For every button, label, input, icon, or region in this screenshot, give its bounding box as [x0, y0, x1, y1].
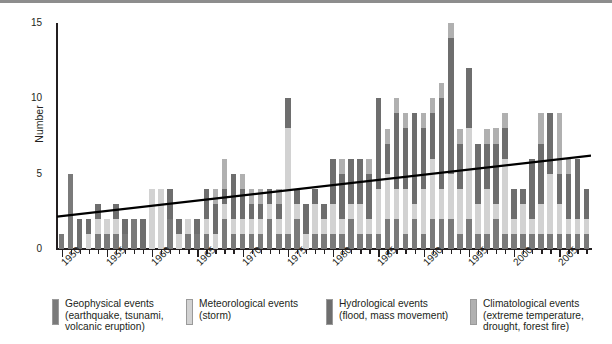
x-tick — [586, 249, 587, 254]
chart-figure: Number 051015 19501955196019651970197519… — [0, 0, 612, 344]
bar-1987 — [394, 98, 400, 249]
bar-segment-hyd — [502, 128, 508, 158]
bar-segment-hyd — [566, 174, 572, 219]
bar-segment-hyd — [394, 113, 400, 188]
x-tick — [360, 249, 361, 254]
bar-segment-hyd — [176, 219, 182, 234]
bar-segment-geo — [194, 234, 200, 249]
bar-segment-met — [466, 128, 472, 218]
bar-1967 — [213, 189, 219, 249]
x-tick — [415, 249, 416, 254]
bar-segment-hyd — [403, 128, 409, 188]
bar-segment-hyd — [249, 204, 255, 219]
bar-segment-cli — [240, 174, 246, 189]
bar-segment-met — [348, 204, 354, 219]
bar-segment-hyd — [511, 189, 517, 219]
bar-1988 — [403, 113, 409, 249]
x-tick — [550, 249, 551, 254]
bar-segment-cli — [385, 129, 391, 144]
bar-segment-geo — [276, 234, 282, 249]
bar-segment-geo — [357, 234, 363, 249]
bar-segment-hyd — [276, 204, 282, 219]
bar-1951 — [68, 174, 74, 249]
bar-segment-hyd — [222, 189, 228, 204]
bar-segment-hyd — [231, 174, 237, 219]
bar-2006 — [566, 159, 572, 249]
bar-segment-met — [448, 174, 454, 219]
x-tick — [369, 249, 370, 254]
bar-1976 — [294, 189, 300, 249]
bar-1964 — [185, 219, 191, 249]
bar-segment-met — [104, 219, 110, 234]
y-tick-label: 10 — [14, 93, 42, 103]
bar-2000 — [511, 189, 517, 249]
bar-segment-geo — [330, 234, 336, 249]
bar-segment-hyd — [213, 204, 219, 234]
x-tick — [315, 249, 316, 254]
bar-segment-hyd — [466, 68, 472, 128]
bar-segment-met — [421, 189, 427, 234]
bar-segment-hyd — [475, 144, 481, 204]
bar-1995 — [466, 68, 472, 249]
bar-segment-hyd — [557, 174, 563, 204]
bar-segment-geo — [312, 234, 318, 249]
x-tick — [224, 249, 225, 254]
bar-segment-hyd — [285, 98, 291, 128]
bar-segment-met — [584, 219, 590, 234]
x-tick — [505, 249, 506, 254]
bar-1982 — [348, 159, 354, 249]
bar-2005 — [557, 113, 563, 249]
bar-1955 — [104, 219, 110, 249]
bar-segment-geo — [538, 234, 544, 249]
legend-item-met[interactable]: Meteorological events (storm) — [186, 298, 298, 325]
bar-segment-cli — [258, 189, 264, 204]
bar-1960 — [149, 189, 155, 249]
bar-segment-hyd — [366, 174, 372, 219]
bar-2004 — [547, 113, 553, 249]
bar-segment-met — [231, 219, 237, 234]
bar-1979 — [321, 204, 327, 249]
bar-segment-geo — [231, 234, 237, 249]
bar-segment-hyd — [140, 219, 146, 249]
bar-segment-met — [475, 204, 481, 234]
bar-segment-hyd — [448, 38, 454, 174]
bar-1991 — [430, 98, 436, 249]
x-tick — [541, 249, 542, 254]
bar-1996 — [475, 144, 481, 249]
legend-item-cli[interactable]: Climatological events (extreme temperatu… — [470, 298, 584, 333]
bar-segment-hyd — [86, 219, 92, 234]
plot-area — [57, 23, 591, 249]
bar-segment-geo — [285, 234, 291, 249]
bar-segment-met — [95, 219, 101, 234]
bar-1981 — [339, 159, 345, 249]
bar-segment-geo — [448, 219, 454, 249]
bar-1973 — [267, 189, 273, 249]
bar-segment-met — [357, 204, 363, 234]
legend-item-hyd[interactable]: Hydrological events (flood, mass movemen… — [326, 298, 448, 325]
bar-1963 — [176, 219, 182, 249]
bar-segment-hyd — [312, 189, 318, 204]
bar-segment-met — [457, 189, 463, 234]
x-tick — [98, 249, 99, 254]
bar-segment-met — [502, 159, 508, 234]
bar-segment-met — [240, 219, 246, 234]
bar-segment-cli — [484, 129, 490, 144]
bar-segment-hyd — [321, 204, 327, 219]
x-tick — [405, 249, 406, 254]
bar-segment-geo — [68, 174, 74, 249]
bar-segment-cli — [439, 83, 445, 98]
bar-segment-hyd — [303, 204, 309, 234]
bar-segment-met — [430, 159, 436, 219]
bar-segment-met — [366, 219, 372, 234]
bar-1997 — [484, 129, 490, 250]
bar-segment-cli — [448, 23, 454, 38]
bar-segment-met — [547, 174, 553, 234]
bar-1965 — [194, 219, 200, 249]
bar-1986 — [385, 129, 391, 250]
legend-item-geo[interactable]: Geophysical events (earthquake, tsunami,… — [52, 298, 164, 333]
bar-segment-hyd — [584, 189, 590, 219]
bar-segment-met — [267, 204, 273, 219]
bar-segment-cli — [276, 189, 282, 204]
bar-segment-geo — [511, 234, 517, 249]
bar-segment-geo — [348, 219, 354, 249]
